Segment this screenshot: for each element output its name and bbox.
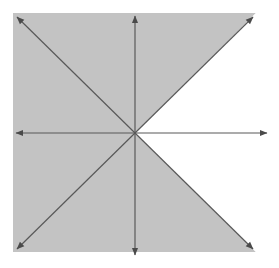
coordinate-plane-figure	[0, 0, 279, 268]
figure-container	[0, 0, 279, 268]
